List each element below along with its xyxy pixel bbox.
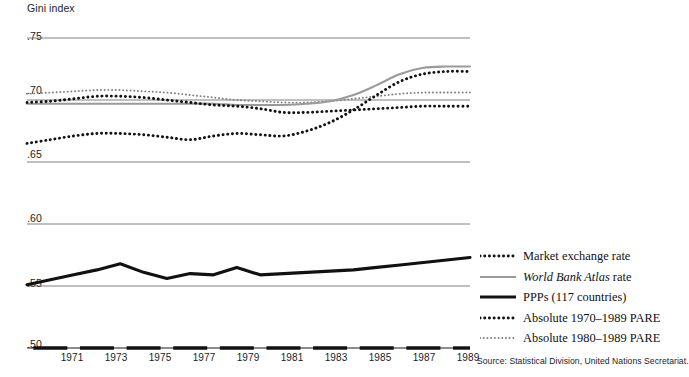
legend-label-absolute-1980-1989-pare: Absolute 1980–1989 PARE <box>523 332 660 344</box>
gridlines <box>27 38 470 348</box>
legend-item-market-exchange-rate: Market exchange rate <box>480 246 676 267</box>
series-line-1 <box>27 66 470 105</box>
source-note: Source: Statistical Division, United Nat… <box>477 356 689 366</box>
legend-swatch-ppps <box>480 290 516 304</box>
legend-item-absolute-1970-1989-pare: Absolute 1970–1989 PARE <box>480 308 676 329</box>
legend: Market exchange rate World Bank Atlas ra… <box>480 246 676 349</box>
legend-item-ppps: PPPs (117 countries) <box>480 287 676 308</box>
legend-item-world-bank-atlas-rate: World Bank Atlas rate <box>480 267 676 288</box>
legend-label-ppps: PPPs (117 countries) <box>523 291 627 303</box>
legend-item-absolute-1980-1989-pare: Absolute 1980–1989 PARE <box>480 328 676 349</box>
series-line-2 <box>27 257 470 284</box>
legend-swatch-world-bank-atlas-rate <box>480 270 516 284</box>
legend-label-world-bank-atlas-rate: World Bank Atlas rate <box>523 271 631 283</box>
legend-label-market-exchange-rate: Market exchange rate <box>523 250 630 262</box>
legend-swatch-absolute-1980-1989-pare <box>480 331 516 345</box>
legend-label-rest-part: rate <box>610 270 632 284</box>
series-layer <box>27 66 470 284</box>
legend-label-absolute-1970-1989-pare: Absolute 1970–1989 PARE <box>523 312 660 324</box>
legend-swatch-market-exchange-rate <box>480 249 516 263</box>
legend-label-italic-part: World Bank Atlas <box>523 270 610 284</box>
legend-swatch-absolute-1970-1989-pare <box>480 311 516 325</box>
